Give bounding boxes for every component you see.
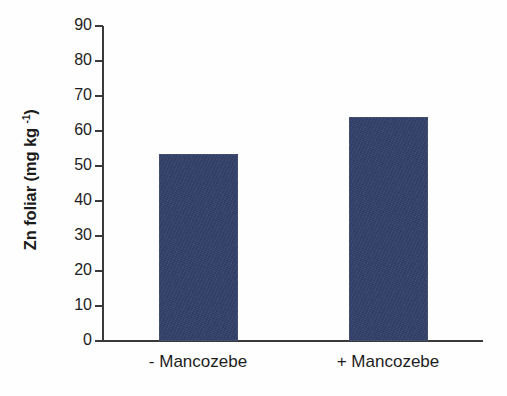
y-axis-tick [95, 200, 103, 202]
y-axis-tick-label-text: 10 [50, 297, 92, 313]
bar [349, 117, 428, 341]
y-axis-tick-label-text: 50 [50, 157, 92, 173]
bar [159, 154, 238, 341]
y-axis-tick-label-text: 90 [50, 17, 92, 33]
y-axis-tick-label: 80 [50, 52, 92, 68]
y-axis-tick [95, 305, 103, 307]
y-axis-tick-label: 70 [50, 87, 92, 103]
y-axis-tick [95, 165, 103, 167]
y-axis-tick-label-text: 60 [50, 122, 92, 138]
y-axis-tick [95, 270, 103, 272]
plot-area: 0102030405060708090 - Mancozebe+ Mancoze… [0, 0, 507, 396]
y-axis-tick-label: 60 [50, 122, 92, 138]
y-axis-tick-label-text: 80 [50, 52, 92, 68]
y-axis-tick [95, 25, 103, 27]
y-axis-tick [95, 130, 103, 132]
y-axis-line [102, 26, 104, 342]
y-axis-tick-label: 0 [50, 332, 92, 348]
y-axis-tick-label: 50 [50, 157, 92, 173]
y-axis-tick-label: 40 [50, 192, 92, 208]
y-axis-tick [95, 60, 103, 62]
x-axis-category-label: + Mancozebe [298, 352, 478, 372]
y-axis-tick [95, 340, 103, 342]
y-axis-tick-label: 30 [50, 227, 92, 243]
y-axis-tick [95, 235, 103, 237]
y-axis-tick-label: 20 [50, 262, 92, 278]
y-axis-tick-label-text: 70 [50, 87, 92, 103]
y-axis-tick-label-text: 20 [50, 262, 92, 278]
y-axis-tick-label-text: 40 [50, 192, 92, 208]
y-axis-tick-label-text: 0 [50, 332, 92, 348]
y-axis-tick [95, 95, 103, 97]
bar-chart-figure: Zn foliar (mg kg -1) 0102030405060708090… [0, 0, 507, 396]
y-axis-tick-label: 10 [50, 297, 92, 313]
y-axis-tick-label: 90 [50, 17, 92, 33]
y-axis-tick-label-text: 30 [50, 227, 92, 243]
x-axis-category-label: - Mancozebe [108, 352, 288, 372]
